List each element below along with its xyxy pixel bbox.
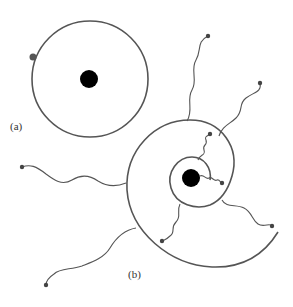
wave-endpoint-dot bbox=[206, 34, 210, 38]
wave-line bbox=[46, 228, 136, 285]
wave-line bbox=[162, 204, 180, 241]
wave-endpoint-dot bbox=[270, 224, 274, 228]
wave-endpoint-dot bbox=[160, 239, 164, 243]
wave-line bbox=[187, 36, 208, 121]
wave-endpoint-dot bbox=[20, 165, 24, 169]
wave-endpoint-dot bbox=[44, 283, 48, 287]
diagram-canvas: (a) (b) bbox=[0, 0, 293, 307]
wave-endpoint-dot bbox=[258, 81, 262, 85]
panel-a bbox=[30, 21, 149, 137]
panel-b bbox=[20, 34, 278, 287]
wave-line bbox=[222, 200, 272, 226]
wave-line bbox=[22, 166, 126, 186]
panel-a-label: (a) bbox=[10, 120, 22, 132]
diagram-svg bbox=[0, 0, 293, 307]
spiral-orbit bbox=[127, 120, 278, 267]
wave-endpoint-dot bbox=[208, 132, 212, 136]
wave-endpoint-dot bbox=[220, 181, 224, 185]
wave-line bbox=[198, 134, 210, 160]
panel-b-label: (b) bbox=[128, 268, 141, 280]
nucleus bbox=[80, 70, 98, 88]
electron-particle bbox=[30, 54, 37, 61]
wave-line bbox=[219, 83, 260, 136]
nucleus bbox=[182, 169, 200, 187]
